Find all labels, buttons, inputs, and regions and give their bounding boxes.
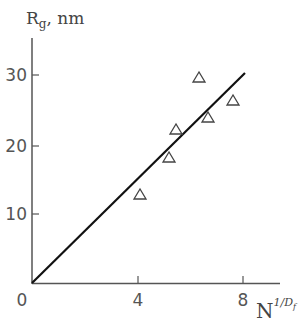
data-point-triangle: [193, 72, 205, 82]
y-tick-label-30: 30: [5, 65, 27, 85]
data-point-triangle: [134, 189, 146, 199]
y-axis-title: Rg, nm: [26, 8, 84, 31]
y-tick-label-20: 20: [5, 136, 27, 156]
x-axis-title: N1/Df: [256, 296, 298, 323]
origin-label: 0: [17, 290, 28, 310]
fit-line: [32, 73, 245, 283]
y-tick-label-10: 10: [5, 204, 27, 224]
data-point-triangle: [227, 95, 239, 105]
x-tick-label-8: 8: [238, 290, 249, 310]
x-tick-label-4: 4: [133, 290, 144, 310]
data-point-triangle: [170, 124, 182, 134]
chart: 30 20 10 0 4 8 Rg, nm N1/Df: [0, 0, 302, 325]
